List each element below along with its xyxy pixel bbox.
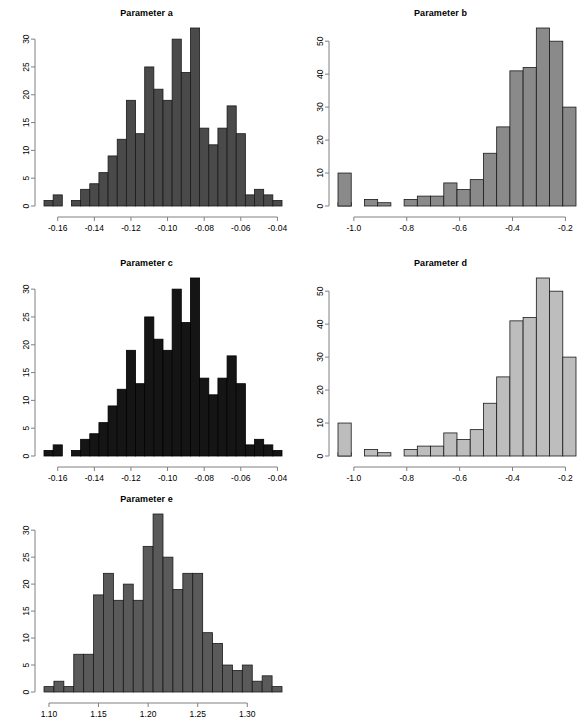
x-tick-label: -0.04 (268, 223, 288, 233)
y-tick-label: 25 (21, 552, 31, 562)
histogram-bar (81, 439, 90, 456)
histogram-bar (510, 321, 523, 456)
chart-title-parameter-a: Parameter a (0, 8, 293, 18)
x-tick-label: 1.15 (90, 709, 107, 717)
y-axis: 051015202530 (21, 34, 35, 208)
histogram-bar (273, 200, 282, 206)
histogram-bar (183, 573, 193, 692)
histogram-bar (218, 128, 227, 206)
chart-title-parameter-d: Parameter d (294, 258, 587, 268)
x-tick-label: 1.25 (189, 709, 206, 717)
histogram-bar (523, 318, 536, 456)
x-tick-label: -0.2 (558, 473, 573, 483)
x-tick-label: -0.10 (158, 223, 178, 233)
histogram-bar (154, 89, 163, 206)
histogram-bar (126, 350, 135, 456)
y-tick-label: 30 (21, 284, 31, 294)
histogram-bar (364, 449, 377, 456)
histogram-bar (364, 199, 377, 206)
histogram-bar (444, 183, 457, 206)
x-tick-label: -0.16 (48, 223, 68, 233)
histogram-bar (108, 406, 117, 456)
x-axis: -1.0-0.8-0.6-0.4-0.2 (347, 217, 573, 233)
histogram-bar (117, 389, 126, 456)
y-tick-label: 0 (315, 203, 325, 208)
plot-area-parameter-b: 01020304050-1.0-0.8-0.6-0.4-0.2 (294, 18, 587, 243)
histogram-bars (44, 28, 282, 206)
y-tick-label: 10 (315, 168, 325, 178)
histogram-bar (236, 134, 245, 206)
histogram-bar (54, 681, 64, 692)
histogram-bar (470, 430, 483, 456)
x-tick-label: -0.6 (452, 223, 467, 233)
y-tick-label: 30 (21, 525, 31, 535)
histogram-bar (190, 278, 199, 456)
histogram-bar (99, 173, 108, 206)
histogram-bar (404, 199, 417, 206)
y-tick-label: 10 (21, 395, 31, 405)
histogram-bar (223, 665, 233, 692)
x-axis: 1.101.151.201.251.30 (41, 703, 256, 717)
histogram-bar (236, 384, 245, 456)
histogram-bar (172, 289, 181, 456)
histogram-bar (245, 445, 254, 456)
y-axis: 01020304050 (315, 36, 329, 208)
histogram-bar (404, 449, 417, 456)
histogram-bar (417, 446, 430, 456)
histogram-bar (90, 434, 99, 456)
y-tick-label: 10 (21, 145, 31, 155)
histogram-bar (262, 676, 272, 692)
histogram-bars (338, 278, 576, 456)
y-tick-label: 10 (21, 633, 31, 643)
histogram-bar (255, 189, 264, 206)
x-tick-label: -1.0 (347, 223, 362, 233)
histogram-bar (126, 100, 135, 206)
x-tick-label: -0.08 (195, 223, 215, 233)
y-tick-label: 0 (21, 689, 31, 694)
chart-svg-parameter-e: 0510152025301.101.151.201.251.30 (0, 504, 293, 717)
x-tick-label: 1.30 (239, 709, 256, 717)
x-tick-label: -0.12 (121, 223, 141, 233)
histogram-bar (44, 450, 53, 456)
histogram-bar (227, 106, 236, 206)
x-tick-label: -0.8 (399, 223, 414, 233)
histogram-bar (264, 445, 273, 456)
histogram-bar (457, 440, 470, 456)
y-tick-label: 5 (21, 662, 31, 667)
histogram-bar (154, 339, 163, 456)
chart-title-parameter-c: Parameter c (0, 258, 293, 268)
y-tick-label: 40 (315, 69, 325, 79)
histogram-bar (245, 195, 254, 206)
histogram-bar (232, 670, 242, 692)
histogram-bar (242, 665, 252, 692)
y-tick-label: 0 (21, 203, 31, 208)
histogram-bar (536, 28, 549, 206)
histogram-bar (133, 600, 143, 692)
y-tick-label: 15 (21, 118, 31, 128)
histogram-bar (64, 687, 74, 692)
chart-title-parameter-b: Parameter b (294, 8, 587, 18)
histogram-bar (470, 180, 483, 206)
histogram-bar (550, 291, 563, 456)
histogram-bar (227, 356, 236, 456)
histogram-bar (252, 681, 262, 692)
histogram-bar (71, 450, 80, 456)
histogram-bar (123, 584, 133, 692)
histogram-bars (44, 514, 282, 692)
y-tick-label: 50 (315, 36, 325, 46)
histogram-bar (44, 687, 54, 692)
histogram-bar (181, 73, 190, 207)
x-tick-label: -0.4 (505, 223, 520, 233)
y-tick-label: 20 (21, 579, 31, 589)
histogram-bar (117, 139, 126, 206)
x-tick-label: -0.06 (231, 473, 251, 483)
histogram-bar (378, 203, 391, 206)
plot-area-parameter-a: 051015202530-0.16-0.14-0.12-0.10-0.08-0.… (0, 18, 293, 243)
panel-parameter-a: Parameter a 051015202530-0.16-0.14-0.12-… (0, 4, 293, 252)
histogram-bar (94, 595, 104, 692)
histogram-bar (172, 39, 181, 206)
histogram-bar (200, 378, 209, 456)
y-tick-label: 25 (21, 62, 31, 72)
x-tick-label: -0.2 (558, 223, 573, 233)
histogram-bar (74, 654, 84, 692)
